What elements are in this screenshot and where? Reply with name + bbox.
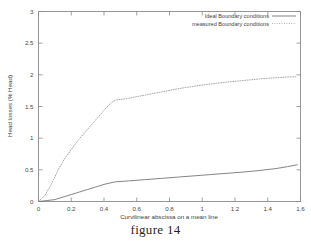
x-axis-ticks: 00.20.40.60.811.21.41.6: [37, 12, 306, 212]
x-tick-label: 1.2: [231, 205, 240, 212]
legend-item-ideal-label: Ideal Boundary conditions: [205, 13, 270, 19]
x-axis-title: Curvilinear abscissa on a mean line: [120, 213, 218, 220]
x-tick-label: 0.4: [100, 205, 109, 212]
chart-plot: 00.20.40.60.811.21.41.6 00.511.522.53 Cu…: [0, 0, 311, 225]
y-axis-title: Head losses (% Head): [6, 75, 13, 137]
x-tick-label: 0.2: [67, 205, 76, 212]
y-tick-label: 0.5: [25, 166, 34, 173]
legend-item-measured-label: measured Boundary conditions: [192, 21, 269, 27]
data-series-ideal: [39, 165, 298, 202]
plot-frame: [39, 12, 301, 202]
x-tick-label: 0: [37, 205, 41, 212]
x-tick-label: 1.4: [263, 205, 272, 212]
y-tick-label: 0: [30, 198, 34, 205]
y-axis-ticks: 00.511.522.53: [25, 8, 301, 205]
chart-legend: Ideal Boundary conditions measured Bound…: [192, 13, 296, 27]
data-series-group: [39, 77, 298, 202]
figure-container: 00.20.40.60.811.21.41.6 00.511.522.53 Cu…: [0, 0, 311, 246]
data-series-measured: [39, 77, 298, 202]
y-tick-label: 2: [30, 71, 34, 78]
y-tick-label: 2.5: [25, 39, 34, 46]
plot-axes-frame: [39, 12, 301, 202]
y-tick-label: 3: [30, 8, 34, 15]
figure-caption: figure 14: [0, 222, 311, 238]
x-tick-label: 0.6: [132, 205, 141, 212]
y-tick-label: 1.5: [25, 103, 34, 110]
x-tick-label: 1: [201, 205, 205, 212]
y-tick-label: 1: [30, 134, 34, 141]
x-tick-label: 0.8: [165, 205, 174, 212]
x-tick-label: 1.6: [296, 205, 305, 212]
